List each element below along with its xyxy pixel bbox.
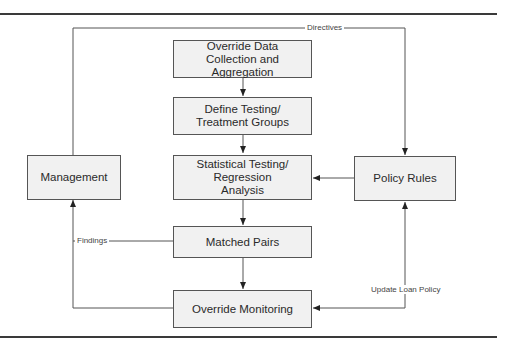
define-testing-groups-box: Define Testing/ Treatment Groups (173, 97, 312, 135)
matched-pairs-box: Matched Pairs (173, 226, 312, 258)
update-loan-policy-label: Update Loan Policy (369, 285, 442, 294)
override-monitoring-box: Override Monitoring (173, 290, 312, 328)
override-data-collection-box: Override Data Collection and Aggregation (173, 40, 312, 78)
management-box: Management (27, 155, 121, 200)
flow-diagram: Override Data Collection and Aggregation… (0, 0, 506, 344)
findings-label: Findings (75, 236, 109, 245)
statistical-testing-box: Statistical Testing/ Regression Analysis (173, 155, 312, 200)
directives-label: Directives (305, 23, 344, 32)
policy-rules-box: Policy Rules (354, 156, 456, 201)
